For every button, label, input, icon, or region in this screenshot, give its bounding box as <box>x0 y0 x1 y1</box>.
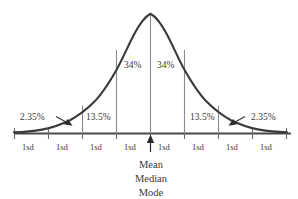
pct-label-left-outer: 2.35% <box>20 113 45 123</box>
mean-label: Mean <box>121 160 181 171</box>
mean-indicator-arrow <box>147 135 154 153</box>
sd-label-5: 1sd <box>158 143 170 152</box>
sd-label-7: 1sd <box>226 143 238 152</box>
sd-label-3: 1sd <box>90 143 102 152</box>
pct-label-left-inner: 34% <box>124 61 141 71</box>
sd-label-2: 1sd <box>56 143 68 152</box>
pct-label-left-mid: 13.5% <box>86 113 111 123</box>
sd-label-8: 1sd <box>260 143 272 152</box>
median-label: Median <box>121 174 181 185</box>
pct-label-right-mid: 13.5% <box>190 113 215 123</box>
pct-label-right-inner: 34% <box>157 61 174 71</box>
mode-label: Mode <box>121 188 181 199</box>
sd-label-1: 1sd <box>22 143 34 152</box>
normal-distribution-figure: 2.35% 13.5% 34% 34% 13.5% 2.35% 1sd 1sd … <box>0 0 298 199</box>
sd-label-6: 1sd <box>192 143 204 152</box>
sd-label-4: 1sd <box>124 143 136 152</box>
pct-label-right-outer: 2.35% <box>251 113 276 123</box>
